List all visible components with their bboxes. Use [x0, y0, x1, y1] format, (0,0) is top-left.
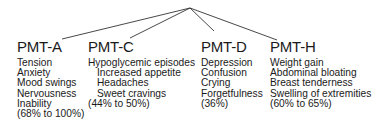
- connector-pmt-d: [190, 8, 214, 31]
- group-pmt-a: PMT-A Tension Anxiety Mood swings Nervou…: [17, 39, 84, 119]
- prevalence: (44% to 50%): [88, 99, 195, 109]
- connector-pmt-h: [190, 8, 277, 40]
- symptom-list: Tension Anxiety Mood swings Nervousness …: [17, 58, 84, 119]
- prevalence: (68% to 100%): [17, 109, 84, 119]
- symptom-list: Depression Confusion Crying Forgetfulnes…: [201, 58, 263, 109]
- symptom-list: Hypoglycemic episodes Increased appetite…: [88, 58, 195, 109]
- group-title: PMT-C: [88, 39, 195, 55]
- group-title: PMT-D: [201, 39, 263, 55]
- group-title: PMT-A: [17, 39, 84, 55]
- prevalence: (36%): [201, 99, 263, 109]
- connector-pmt-c: [130, 8, 190, 38]
- connector-pmt-a: [62, 8, 190, 39]
- group-pmt-c: PMT-C Hypoglycemic episodes Increased ap…: [88, 39, 195, 109]
- group-pmt-h: PMT-H Weight gain Abdominal bloating Bre…: [270, 39, 371, 109]
- prevalence: (60% to 65%): [270, 99, 371, 109]
- group-pmt-d: PMT-D Depression Confusion Crying Forget…: [201, 39, 263, 109]
- group-title: PMT-H: [270, 39, 371, 55]
- symptom-list: Weight gain Abdominal bloating Breast te…: [270, 58, 371, 109]
